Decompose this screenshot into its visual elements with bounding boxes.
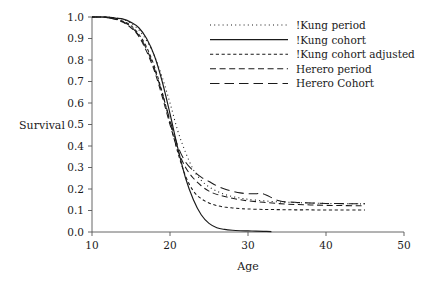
x-tick-label: 50 (397, 239, 410, 251)
y-tick-label: 0.6 (67, 97, 84, 109)
x-tick-label: 40 (319, 239, 332, 251)
y-tick-label: 0.2 (67, 183, 84, 195)
legend-label-3: Herero period (296, 63, 372, 75)
survival-chart-figure: 1.00.90.80.70.60.50.40.30.20.10.01020304… (0, 0, 425, 283)
y-axis-title: Survival (19, 119, 65, 132)
legend-label-2: !Kung cohort adjusted (296, 48, 415, 60)
y-tick-label: 0.0 (67, 226, 84, 238)
y-tick-label: 0.1 (67, 204, 84, 216)
series-line-2 (92, 17, 365, 210)
legend-label-0: !Kung period (296, 19, 366, 31)
x-tick-label: 20 (163, 239, 176, 251)
x-axis-title: Age (236, 260, 259, 273)
y-tick-label: 1.0 (67, 11, 84, 23)
series-line-1 (92, 17, 271, 232)
x-tick-label: 30 (241, 239, 254, 251)
y-tick-label: 0.7 (67, 75, 84, 87)
chart-canvas: 1.00.90.80.70.60.50.40.30.20.10.01020304… (0, 0, 425, 283)
y-tick-label: 0.4 (67, 140, 84, 152)
legend-label-1: !Kung cohort (296, 34, 367, 46)
y-tick-label: 0.9 (67, 32, 84, 44)
legend-label-4: Herero Cohort (296, 77, 375, 89)
chart-legend: !Kung period!Kung cohort!Kung cohort adj… (210, 19, 415, 89)
y-tick-label: 0.8 (67, 54, 84, 66)
y-tick-label: 0.5 (67, 118, 84, 130)
x-tick-label: 10 (85, 239, 98, 251)
y-tick-label: 0.3 (67, 161, 84, 173)
